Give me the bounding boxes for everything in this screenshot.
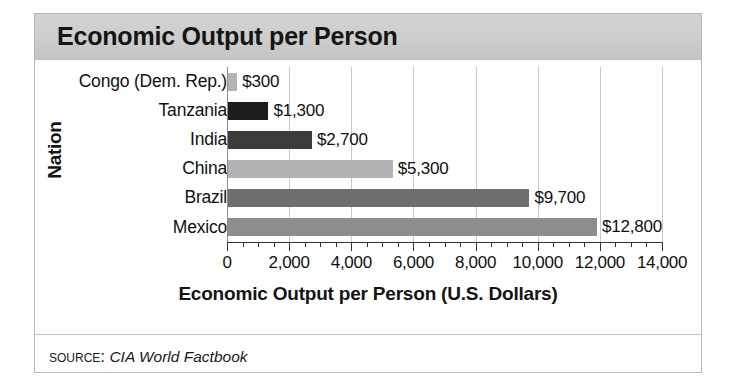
chart-figure: Economic Output per Person Nation Congo … [34, 13, 702, 373]
x-tick-minor [569, 242, 570, 247]
source-note: Source: CIA World Factbook [49, 347, 248, 367]
x-tick-label: 12,000 [575, 253, 625, 273]
x-tick-minor [507, 242, 508, 247]
chart-title: Economic Output per Person [57, 22, 398, 51]
bar-row[interactable]: $5,300 [228, 160, 662, 178]
x-tick-minor [553, 242, 554, 247]
x-tick-label: 8,000 [455, 253, 496, 273]
x-tick-label: 6,000 [393, 253, 434, 273]
bar-value-label: $300 [242, 72, 279, 92]
x-tick-major [227, 242, 228, 251]
x-tick-minor [615, 242, 616, 247]
y-tick-label: India [45, 131, 227, 149]
x-tick-minor [305, 242, 306, 247]
bar-value-label: $1,300 [273, 101, 324, 121]
x-tick-label: 0 [222, 253, 231, 273]
x-tick-minor [429, 242, 430, 247]
bar-series: $300$1,300$2,700$5,300$9,700$12,800 [228, 67, 662, 242]
bar-row[interactable]: $12,800 [228, 218, 662, 236]
gridline [662, 67, 663, 242]
x-tick-minor [336, 242, 337, 247]
chart-title-band: Economic Output per Person [35, 14, 701, 60]
x-tick-minor [320, 242, 321, 247]
x-tick-minor [631, 242, 632, 247]
x-tick-minor [243, 242, 244, 247]
x-tick-major [538, 242, 539, 251]
source-value: CIA World Factbook [109, 348, 247, 365]
x-tick-major [476, 242, 477, 251]
x-tick-minor [367, 242, 368, 247]
bar-value-label: $9,700 [534, 188, 585, 208]
y-tick-label: Tanzania [45, 102, 227, 120]
bar-value-label: $2,700 [317, 130, 368, 150]
x-tick-minor [445, 242, 446, 247]
x-tick-major [413, 242, 414, 251]
x-tick-label: 14,000 [637, 253, 687, 273]
bar-row[interactable]: $300 [228, 73, 662, 91]
plot-wrapper: Nation Congo (Dem. Rep.)TanzaniaIndiaChi… [35, 61, 701, 327]
x-tick-major [662, 242, 663, 251]
bar-row[interactable]: $9,700 [228, 189, 662, 207]
bar-row[interactable]: $2,700 [228, 131, 662, 149]
x-tick-minor [274, 242, 275, 247]
bar[interactable] [228, 160, 393, 178]
bar[interactable] [228, 189, 529, 207]
plot-area: $300$1,300$2,700$5,300$9,700$12,800 [227, 67, 662, 242]
y-tick-label: Congo (Dem. Rep.) [45, 73, 227, 91]
bar[interactable] [228, 218, 597, 236]
x-tick-label: 2,000 [269, 253, 310, 273]
x-tick-major [351, 242, 352, 251]
bar[interactable] [228, 73, 237, 91]
x-tick-minor [382, 242, 383, 247]
x-tick-minor [646, 242, 647, 247]
bar[interactable] [228, 102, 268, 120]
x-tick-minor [491, 242, 492, 247]
x-tick-minor [258, 242, 259, 247]
bar-value-label: $12,800 [602, 217, 662, 237]
x-tick-minor [398, 242, 399, 247]
source-divider [35, 334, 701, 335]
x-axis-title: Economic Output per Person (U.S. Dollars… [35, 283, 701, 305]
y-tick-label: China [45, 160, 227, 178]
x-axis-tick-labels: 02,0004,0006,0008,00010,00012,00014,000 [227, 253, 662, 275]
x-tick-label: 4,000 [331, 253, 372, 273]
x-tick-major [600, 242, 601, 251]
x-tick-minor [522, 242, 523, 247]
bar[interactable] [228, 131, 312, 149]
x-tick-major [289, 242, 290, 251]
source-kicker: Source: [49, 347, 105, 366]
y-axis-tick-labels: Congo (Dem. Rep.)TanzaniaIndiaChinaBrazi… [45, 67, 227, 242]
x-tick-minor [584, 242, 585, 247]
bar-row[interactable]: $1,300 [228, 102, 662, 120]
x-tick-minor [460, 242, 461, 247]
y-tick-label: Mexico [45, 219, 227, 237]
bar-value-label: $5,300 [398, 159, 449, 179]
x-tick-label: 10,000 [513, 253, 563, 273]
y-tick-label: Brazil [45, 189, 227, 207]
